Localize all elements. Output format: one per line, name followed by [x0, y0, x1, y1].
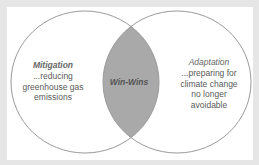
adaptation-line: climate change — [180, 79, 237, 90]
adaptation-line: avoidable — [180, 100, 237, 111]
adaptation-label: Adaptation ...preparing for climate chan… — [180, 57, 237, 111]
adaptation-line: ...preparing for — [180, 68, 237, 79]
adaptation-line: no longer — [180, 89, 237, 100]
adaptation-title: Adaptation — [180, 57, 237, 68]
mitigation-line: greenhouse gas — [23, 82, 84, 93]
win-wins-label: Win-Wins — [110, 77, 149, 87]
mitigation-line: emissions — [23, 92, 84, 103]
mitigation-label: Mitigation ...reducing greenhouse gas em… — [23, 60, 84, 103]
mitigation-title: Mitigation — [23, 60, 84, 71]
mitigation-line: ...reducing — [23, 71, 84, 82]
